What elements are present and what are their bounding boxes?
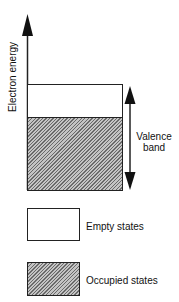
valence-band-label: Valence band <box>135 131 173 153</box>
valence-band-label-line1: Valence <box>135 131 173 142</box>
valence-band-double-arrow <box>125 86 136 190</box>
legend-swatch-empty <box>27 208 80 241</box>
valence-band-label-line2: band <box>135 142 173 153</box>
legend-label-empty: Empty states <box>86 221 144 232</box>
legend-label-occupied: Occupied states <box>86 275 158 286</box>
band-occupied-region <box>27 117 123 191</box>
legend-swatch-occupied <box>27 262 80 296</box>
axis-label: Electron energy <box>7 42 18 112</box>
band-empty-region <box>27 84 123 119</box>
